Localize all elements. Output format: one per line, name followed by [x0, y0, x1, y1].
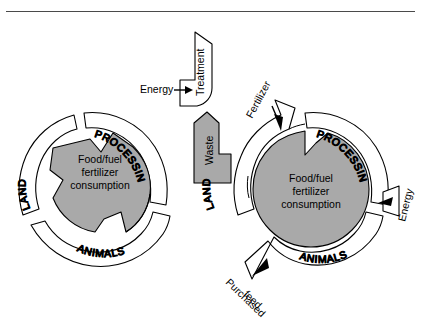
right-center-line1: Food/fuel: [289, 172, 333, 184]
waste-group: Waste: [194, 112, 231, 183]
left-cycle-group: PROCESSING LAND ANIMALS Food/fuel fertil…: [0, 0, 170, 266]
figure-canvas: PROCESSING LAND ANIMALS Food/fuel fertil…: [0, 0, 427, 326]
right-center-line3: consumption: [281, 198, 341, 210]
energy-right-flow: Energy: [378, 186, 415, 222]
fertilizer-label: Fertilizer: [243, 78, 273, 120]
right-inner-arc-top: [289, 124, 305, 129]
treatment-group: Treatment: [180, 32, 212, 106]
header-rule: [6, 11, 415, 12]
diagram-svg: PROCESSING LAND ANIMALS Food/fuel fertil…: [0, 0, 427, 326]
left-center-line2: fertilizer: [82, 166, 119, 178]
left-center-line3: consumption: [70, 179, 130, 191]
left-center-line1: Food/fuel: [78, 153, 122, 165]
treatment-label: Treatment: [194, 48, 206, 96]
right-center-line2: fertilizer: [293, 185, 330, 197]
purchased-feed-flow: Purchased feed: [224, 258, 269, 319]
energy-top-label: Energy: [140, 83, 174, 95]
waste-label: Waste: [203, 135, 215, 165]
